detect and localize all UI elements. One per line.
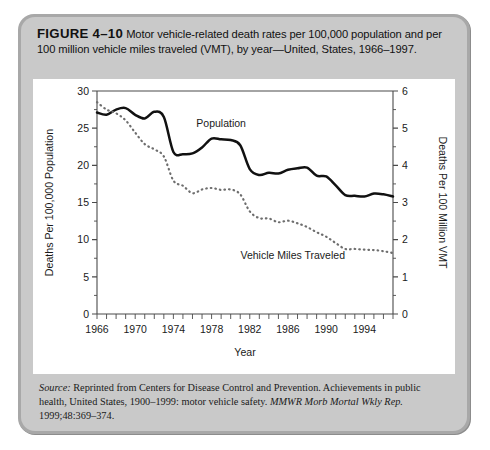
figure-number: FIGURE 4–10 (37, 26, 123, 41)
series-annotation: Vehicle Miles Traveled (241, 249, 346, 261)
figure-caption: FIGURE 4–10 Motor vehicle-related death … (21, 17, 467, 79)
y-tick-label-right: 1 (402, 271, 408, 283)
x-tick-label: 1986 (276, 323, 300, 335)
y-tick-label-left: 15 (77, 196, 89, 208)
x-tick-label: 1990 (314, 323, 338, 335)
x-tick-label: 1982 (238, 323, 262, 335)
chart-plot-panel: 0510152025300123456196619701974197819821… (33, 79, 455, 374)
line-chart: 0510152025300123456196619701974197819821… (33, 79, 455, 374)
y-tick-label-left: 0 (83, 308, 89, 320)
y-tick-label-right: 0 (402, 308, 408, 320)
y-axis-title-left: Deaths Per 100,000 Population (43, 129, 55, 276)
source-citation: 1999;48:369–374. (39, 410, 114, 421)
y-tick-label-right: 3 (402, 196, 408, 208)
y-tick-label-right: 4 (402, 159, 408, 171)
x-tick-label: 1966 (85, 323, 109, 335)
x-tick-label: 1978 (200, 323, 224, 335)
source-note: Source: Reprinted from Centers for Disea… (21, 375, 467, 423)
source-label: Source: (39, 382, 71, 393)
y-tick-label-left: 10 (77, 233, 89, 245)
y-tick-label-right: 5 (402, 122, 408, 134)
y-tick-label-left: 20 (77, 159, 89, 171)
x-tick-label: 1970 (124, 323, 148, 335)
source-journal: MMWR Morb Mortal Wkly Rep. (270, 396, 403, 407)
figure-inner-panel: FIGURE 4–10 Motor vehicle-related death … (21, 17, 467, 431)
x-axis-title: Year (234, 346, 256, 358)
y-tick-label-right: 6 (402, 85, 408, 97)
x-tick-label: 1994 (353, 323, 377, 335)
y-axis-title-right: Deaths Per 100 Million VMT (437, 137, 449, 269)
y-tick-label-right: 2 (402, 233, 408, 245)
series-annotation: Population (196, 117, 246, 129)
x-tick-label: 1974 (162, 323, 186, 335)
y-tick-label-left: 25 (77, 122, 89, 134)
y-tick-label-left: 30 (77, 85, 89, 97)
figure-card: FIGURE 4–10 Motor vehicle-related death … (18, 14, 470, 434)
y-tick-label-left: 5 (83, 271, 89, 283)
